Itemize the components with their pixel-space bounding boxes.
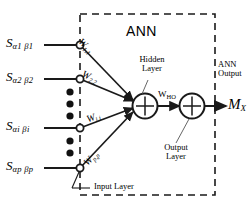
ann-box-title: ANN [126, 23, 157, 39]
output-layer-caption: Output Layer [152, 143, 200, 161]
hidden-output-weight-subscript: HO [167, 93, 176, 100]
ellipsis-dot [66, 137, 73, 144]
hidden-output-weight-symbol: W [158, 89, 167, 99]
output-variable-label: MX [228, 96, 246, 113]
input-node-4 [76, 164, 83, 171]
ellipsis-dot [66, 100, 73, 107]
ann-output-caption: ANN Output [218, 60, 242, 78]
ann-diagram: Sα1 β1 Sα2 β2 Sαi βi Sαp βp W1,1 W2,2 Wi… [0, 0, 250, 210]
hidden-layer-leader [142, 80, 148, 94]
output-layer-caption-line2: Layer [152, 152, 200, 161]
input-label-3: Sαi βi [6, 118, 30, 134]
ellipsis-dot [66, 112, 73, 119]
hidden-output-weight-label: WHO [158, 89, 176, 100]
input-label-4: Sαp βp [6, 158, 33, 174]
input-label-2-subscript: α2 β2 [13, 75, 34, 85]
input-label-4-subscript: αp βp [13, 164, 34, 174]
input-label-3-subscript: αi βi [13, 124, 30, 134]
ellipsis-dot [66, 88, 73, 95]
input-label-1-subscript: α1 β1 [13, 41, 34, 51]
hidden-layer-caption-line2: Layer [129, 64, 175, 73]
output-variable-symbol: M [228, 96, 241, 112]
hidden-layer-caption: Hidden Layer [129, 55, 175, 73]
output-variable-subscript: X [241, 103, 247, 113]
output-layer-leader [176, 119, 189, 143]
ellipsis-dot [66, 149, 73, 156]
ann-output-caption-line2: Output [218, 69, 242, 78]
input-node-3 [76, 124, 83, 131]
input-label-1: Sα1 β1 [6, 35, 33, 51]
diagram-canvas [0, 0, 250, 210]
input-layer-leader-a [72, 172, 79, 188]
input-layer-caption: Input Layer [94, 182, 134, 191]
input-label-2: Sα2 β2 [6, 69, 33, 85]
